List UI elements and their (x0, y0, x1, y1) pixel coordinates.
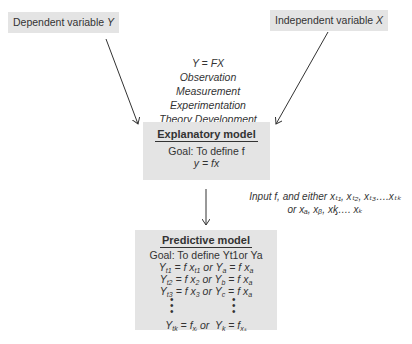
input-note-line1: Input f, and either xₜ₁, xₜ₂, xₜ₃….xₜₖ (238, 190, 412, 203)
input-note: Input f, and either xₜ₁, xₜ₂, xₜ₃….xₜₖ o… (238, 190, 412, 216)
prediction-row: Yt1 = f xt1 or Ya = f xa (135, 261, 277, 273)
input-note-line2: or xₐ, xᵦ, xᶄ…. xₖ (238, 203, 412, 216)
independent-variable-symbol: X (376, 14, 383, 26)
ellipsis-dots: ••• ••• (135, 297, 277, 319)
vertical-ellipsis-left-icon: ••• (170, 297, 174, 315)
predictive-model-box: Predictive model Goal: To define Yt1or Y… (135, 230, 277, 330)
arrow-dependent-to-explanatory (106, 39, 138, 124)
prediction-row: Yt3 = f x3 or Yc = f xa (135, 285, 277, 297)
dependent-variable-symbol: Y (107, 16, 114, 28)
explanatory-model-goal: Goal: To define f (143, 145, 270, 157)
explanatory-model-title: Explanatory model (155, 128, 257, 142)
process-experimentation: Experimentation (143, 98, 273, 112)
arrow-independent-to-explanatory (276, 32, 328, 124)
process-measurement: Measurement (143, 84, 273, 98)
dependent-variable-label: Dependent variable (13, 16, 104, 28)
prediction-row-last: Ytk = fxᵢ or Yk = fxₖ (135, 319, 277, 331)
explanatory-model-equation: y = fx (143, 157, 270, 169)
process-equation: Y = FX (143, 56, 273, 70)
explanatory-model-box: Explanatory model Goal: To define f y = … (143, 122, 270, 180)
prediction-row: Yt2 = f x2 or Yb = f xa (135, 273, 277, 285)
predictive-model-title: Predictive model (160, 234, 252, 248)
predictive-model-goal: Goal: To define Yt1or Ya (135, 249, 277, 261)
independent-variable-label: Independent variable (275, 14, 373, 26)
process-steps: Y = FX Observation Measurement Experimen… (143, 56, 273, 126)
vertical-ellipsis-right-icon: ••• (232, 297, 236, 315)
process-observation: Observation (143, 70, 273, 84)
dependent-variable-box: Dependent variable Y (8, 12, 119, 33)
independent-variable-box: Independent variable X (270, 10, 388, 31)
